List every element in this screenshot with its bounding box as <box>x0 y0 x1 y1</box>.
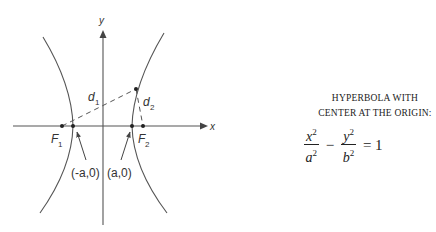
f2-subscript: 2 <box>145 140 150 149</box>
d1-subscript: 1 <box>95 98 100 107</box>
vertex-right-point <box>130 124 134 128</box>
vertex-left-arrow <box>77 132 86 160</box>
minus-sign: − <box>326 137 334 154</box>
y-over-b-fraction: y2 b2 <box>341 125 356 165</box>
caption-line-2: CENTER AT THE ORIGIN: <box>300 106 436 121</box>
focus-f2-point <box>141 124 145 128</box>
equals-one: = 1 <box>363 137 383 154</box>
x-over-a-fraction: x2 a2 <box>304 125 319 165</box>
hyperbola-right-branch <box>132 33 167 213</box>
caption-line-1: HYPERBOLA WITH <box>300 91 436 106</box>
vertex-right-arrow <box>121 132 130 160</box>
distance-d1-line <box>62 89 136 126</box>
d1-label: d <box>88 90 95 104</box>
f1-subscript: 1 <box>58 140 63 149</box>
focus-f1-point <box>60 124 64 128</box>
caption-title: HYPERBOLA WITH CENTER AT THE ORIGIN: <box>300 91 436 121</box>
vertex-left-label: (-a,0) <box>71 166 100 180</box>
vertex-left-point <box>71 124 75 128</box>
hyperbola-left-branch <box>40 37 73 213</box>
x-axis-label: x <box>209 121 216 132</box>
d2-label: d <box>143 95 150 109</box>
hyperbola-equation: x2 a2 − y2 b2 = 1 <box>304 125 436 165</box>
y-axis-label: y <box>98 15 105 26</box>
d2-subscript: 2 <box>150 103 155 112</box>
point-p <box>134 87 138 91</box>
vertex-right-label: (a,0) <box>107 166 132 180</box>
